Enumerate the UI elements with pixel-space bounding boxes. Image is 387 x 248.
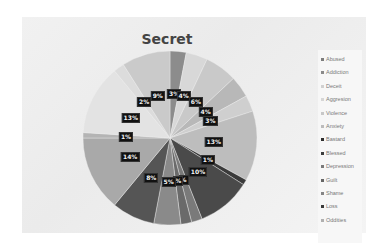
legend-marker-icon <box>321 219 324 222</box>
legend-label: Aggresion <box>326 96 351 102</box>
legend-item: Deceit <box>321 81 342 91</box>
legend-item: Bastard <box>321 134 345 144</box>
legend-item: Depression <box>321 161 354 171</box>
legend-marker-icon <box>321 138 324 141</box>
legend-label: Blessed <box>326 150 346 156</box>
legend-marker-icon <box>321 165 324 168</box>
data-label: 6% <box>189 97 203 107</box>
legend-marker-icon <box>321 179 324 182</box>
legend-label: Oddities <box>326 217 346 223</box>
legend-marker-icon <box>321 152 324 155</box>
data-label: 3% <box>203 116 217 126</box>
pie-chart <box>22 17 312 233</box>
legend-label: Deceit <box>326 83 342 89</box>
data-label: 13% <box>122 113 140 123</box>
data-label: 1% <box>201 155 215 165</box>
legend-label: Abused <box>326 56 345 62</box>
data-label: 1% <box>119 132 133 142</box>
legend-item: Guilt <box>321 175 337 185</box>
legend-item: Violence <box>321 108 347 118</box>
legend-marker-icon <box>321 125 324 128</box>
legend-marker-icon <box>321 192 324 195</box>
data-label: 2% <box>137 97 151 107</box>
legend-label: Depression <box>326 163 354 169</box>
legend-marker-icon <box>321 71 324 74</box>
legend-item: Blessed <box>321 148 346 158</box>
legend-label: Guilt <box>326 177 337 183</box>
legend-label: Addiction <box>326 69 349 75</box>
legend-marker-icon <box>321 58 324 61</box>
legend-item: Oddities <box>321 215 346 225</box>
legend-marker-icon <box>321 112 324 115</box>
data-label: 8% <box>144 173 158 183</box>
legend-label: Violence <box>326 110 347 116</box>
legend-marker-icon <box>321 205 324 208</box>
legend-label: Shame <box>326 190 343 196</box>
legend-label: Bastard <box>326 136 345 142</box>
legend-label: Anxiety <box>326 123 344 129</box>
legend-item: Abused <box>321 54 345 64</box>
legend-item: Loss <box>321 201 338 211</box>
legend-marker-icon <box>321 85 324 88</box>
legend-item: Shame <box>321 188 343 198</box>
data-label: 14% <box>121 152 139 162</box>
data-label: 5% <box>162 177 176 187</box>
legend-marker-icon <box>321 98 324 101</box>
legend: AbusedAddictionDeceitAggresionViolenceAn… <box>318 50 362 243</box>
data-label: 13% <box>205 137 223 147</box>
chart-area: Secret 3%4%6%4%3%13%1%10%%%5%8%14%1%13%2… <box>22 17 366 233</box>
data-label: 9% <box>151 91 165 101</box>
legend-item: Aggresion <box>321 94 351 104</box>
legend-label: Loss <box>326 203 338 209</box>
legend-item: Anxiety <box>321 121 344 131</box>
legend-item: Addiction <box>321 67 349 77</box>
data-label: 10% <box>189 167 207 177</box>
